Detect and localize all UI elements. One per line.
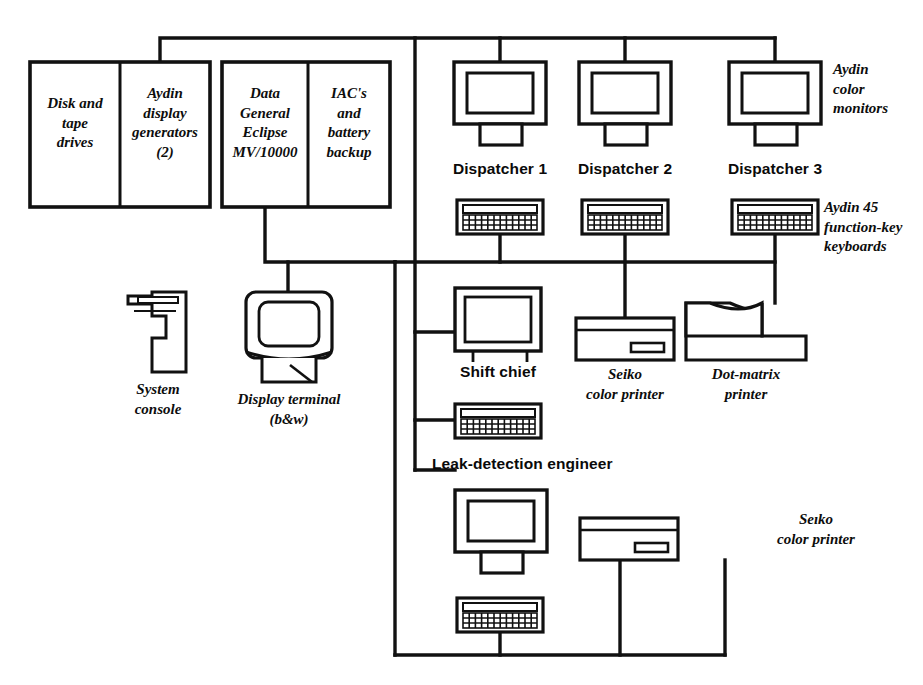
- label-dispatcher-2: Dispatcher 2: [578, 160, 672, 178]
- display-terminal-icon: [246, 292, 332, 382]
- label-leak-detection-engineer: Leak-detection engineer: [432, 455, 613, 473]
- label-disk-tape-drives: Disk and tape drives: [47, 94, 102, 153]
- label-shift-chief: Shift chief: [460, 363, 536, 381]
- label-dispatcher-3: Dispatcher 3: [728, 160, 822, 178]
- keyboard-dispatcher-3: [732, 200, 818, 234]
- keyboard-shift-chief: [455, 404, 541, 438]
- label-aydin-display-generators: Aydin display generators (2): [132, 84, 198, 162]
- label-dot-matrix-printer: Dot-matrix printer: [712, 365, 780, 404]
- monitor-dispatcher-1: [454, 62, 546, 145]
- keyboard-dispatcher-2: [582, 200, 668, 234]
- label-system-console: System console: [135, 380, 182, 419]
- label-dispatcher-1: Dispatcher 1: [453, 160, 547, 178]
- system-architecture-diagram: Disk and tape drives Aydin display gener…: [0, 0, 923, 685]
- monitor-dispatcher-3: [729, 62, 821, 145]
- monitor-dispatcher-2: [579, 62, 671, 145]
- label-aydin-function-key-keyboards: Aydin 45 function-key keyboards: [824, 198, 902, 257]
- seiko-color-printer-upper: [576, 318, 674, 360]
- seiko-color-printer-lower: [580, 518, 678, 560]
- label-iac-battery-backup: IAC's and battery backup: [327, 84, 372, 162]
- label-seiko-color-printer-upper: Seiko color printer: [586, 365, 664, 404]
- monitor-leak-detection: [455, 490, 547, 573]
- label-aydin-color-monitors: Aydin color monitors: [833, 60, 888, 119]
- system-console-icon: [128, 292, 186, 372]
- label-data-general-eclipse: Data General Eclipse MV/10000: [232, 84, 297, 162]
- label-seiko-color-printer-lower: Seıko color printer: [777, 510, 855, 549]
- keyboard-leak-detection: [457, 598, 543, 632]
- dot-matrix-printer: [686, 303, 806, 360]
- monitor-shift-chief: [455, 288, 541, 362]
- keyboard-dispatcher-1: [457, 200, 543, 234]
- label-display-terminal: Display terminal (b&w): [238, 390, 341, 429]
